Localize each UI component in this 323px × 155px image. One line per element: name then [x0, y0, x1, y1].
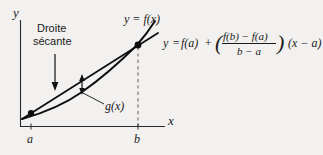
x-axis-label: x: [167, 113, 174, 128]
equation-term-fa: f(a): [181, 36, 198, 50]
equation-equals: =: [172, 36, 180, 50]
equation-lhs: y: [162, 36, 169, 50]
secant-annotation-line1: Droite: [37, 22, 66, 34]
tick-label-a: a: [27, 132, 33, 146]
equation-plus: +: [204, 36, 212, 50]
equation-denominator: b − a: [237, 45, 261, 57]
secant-line-diagram: y x a b y = f(x) Droite sécante g(x) y =…: [0, 0, 323, 155]
equation-paren-close: ): [275, 30, 284, 55]
gap-label: g(x): [105, 99, 124, 113]
y-axis-label: y: [11, 5, 19, 20]
secant-equation: y = f(a) + ( f(b) − f(a) b − a ) (x − a): [162, 30, 321, 57]
equation-factor: (x − a): [288, 36, 321, 50]
point-b-marker: [135, 42, 142, 49]
secant-annotation-line2: sécante: [33, 35, 72, 47]
gap-label-leader: [83, 93, 104, 104]
point-a-marker: [28, 110, 34, 116]
tick-label-b: b: [134, 132, 140, 146]
equation-numerator: f(b) − f(a): [223, 30, 268, 43]
curve-label: y = f(x): [123, 12, 160, 26]
gap-arrow-head-up: [79, 74, 85, 81]
secant-annotation-arrowhead: [52, 82, 59, 91]
